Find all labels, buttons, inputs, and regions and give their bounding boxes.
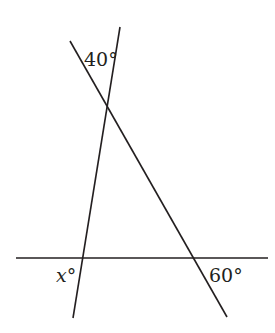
degree-symbol: ° xyxy=(67,264,77,286)
angle-label-60: 60° xyxy=(209,264,243,286)
angle-label-40: 40° xyxy=(84,48,118,70)
geometry-diagram: 40° x° 60° xyxy=(0,0,275,333)
slanted-transversal-line xyxy=(70,41,227,317)
angle-label-x: x° xyxy=(56,264,76,286)
steep-transversal-line xyxy=(73,27,120,318)
variable-x: x xyxy=(56,264,67,286)
